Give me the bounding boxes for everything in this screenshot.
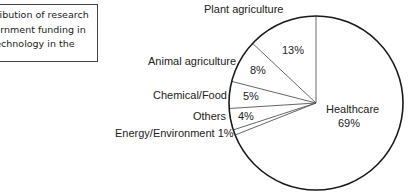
pct-plant-agriculture: 13%	[282, 44, 304, 56]
label-healthcare: Healthcare	[326, 103, 379, 115]
label-plant-agriculture: Plant agriculture	[204, 3, 284, 15]
label-animal-agriculture: Animal agriculture	[148, 55, 236, 67]
pct-animal-agriculture: 8%	[250, 64, 266, 76]
label-chemical-food: Chemical/Food	[153, 89, 227, 101]
pct-healthcare: 69%	[338, 117, 360, 129]
label-others: Others	[193, 110, 227, 122]
pie-chart: Plant agriculture 13% Animal agriculture…	[0, 0, 417, 195]
pct-others: 4%	[238, 110, 254, 122]
pct-chemical-food: 5%	[243, 90, 259, 102]
label-energy-environment: Energy/Environment 1%	[115, 127, 234, 139]
